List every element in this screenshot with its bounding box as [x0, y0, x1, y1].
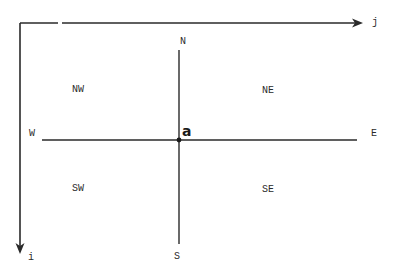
north-label: N: [180, 37, 186, 47]
compass-diagram: [0, 0, 400, 276]
south-label: S: [174, 252, 180, 262]
southwest-quadrant-label: SW: [72, 184, 84, 194]
j-axis-arrow: [20, 19, 363, 28]
west-label: W: [29, 129, 35, 139]
northeast-quadrant-label: NE: [262, 86, 274, 96]
northwest-quadrant-label: NW: [72, 85, 84, 95]
center-point-label: a: [182, 124, 191, 138]
i-axis-label: i: [28, 253, 34, 263]
southeast-quadrant-label: SE: [262, 185, 274, 195]
j-axis-label: j: [372, 18, 378, 28]
i-axis-arrow: [16, 23, 25, 254]
east-label: E: [371, 129, 377, 139]
center-point-dot: [177, 138, 182, 143]
